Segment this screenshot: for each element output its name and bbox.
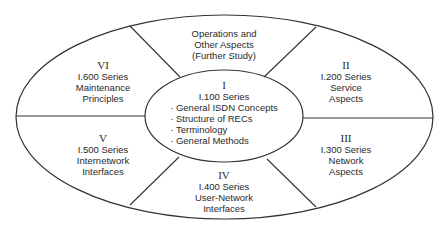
segment-operations: Operations and Other Aspects (Further St… (192, 28, 257, 61)
segment-vi-line-2: Principles (76, 93, 130, 104)
center-series: I.100 Series (170, 91, 278, 102)
segment-ii-series: I.200 Series (321, 71, 372, 82)
segment-v: V I.500 Series Internetwork Interfaces (77, 133, 129, 177)
segment-operations-line-1: Operations and (192, 28, 257, 39)
segment-vi-series: I.600 Series (76, 71, 130, 82)
center-roman: I (170, 80, 278, 91)
divider-top-right (264, 27, 316, 77)
segment-iv-line-2: Interfaces (195, 203, 253, 214)
center-topic-item: Terminology (170, 124, 278, 135)
segment-iv: IV I.400 Series User-Network Interfaces (195, 170, 253, 214)
segment-v-series: I.500 Series (77, 144, 129, 155)
segment-ii-roman: II (321, 60, 372, 71)
segment-vi: VI I.600 Series Maintenance Principles (76, 60, 130, 104)
center-topic-item: Structure of RECs (170, 113, 278, 124)
center-topic-list: General ISDN Concepts Structure of RECs … (170, 102, 278, 146)
segment-iii-line-1: Network (321, 155, 372, 166)
segment-ii: II I.200 Series Service Aspects (321, 60, 372, 104)
divider-bottom-right (267, 159, 316, 207)
divider-top-left (130, 26, 180, 77)
divider-bottom-left (130, 157, 179, 205)
segment-vi-roman: VI (76, 60, 130, 71)
segment-ii-line-2: Aspects (321, 93, 372, 104)
segment-v-line-1: Internetwork (77, 155, 129, 166)
segment-iv-roman: IV (195, 170, 253, 181)
segment-vi-line-1: Maintenance (76, 82, 130, 93)
segment-iv-line-1: User-Network (195, 192, 253, 203)
segment-iii-roman: III (321, 133, 372, 144)
center-topic-item: General Methods (170, 135, 278, 146)
segment-iv-series: I.400 Series (195, 181, 253, 192)
center-segment-i: I I.100 Series General ISDN Concepts Str… (170, 80, 278, 146)
segment-iii-series: I.300 Series (321, 144, 372, 155)
segment-iii-line-2: Aspects (321, 166, 372, 177)
segment-operations-line-3: (Further Study) (192, 50, 257, 61)
segment-v-line-2: Interfaces (77, 166, 129, 177)
segment-ii-line-1: Service (321, 82, 372, 93)
segment-operations-line-2: Other Aspects (192, 39, 257, 50)
segment-v-roman: V (77, 133, 129, 144)
segment-iii: III I.300 Series Network Aspects (321, 133, 372, 177)
center-topic-item: General ISDN Concepts (170, 102, 278, 113)
